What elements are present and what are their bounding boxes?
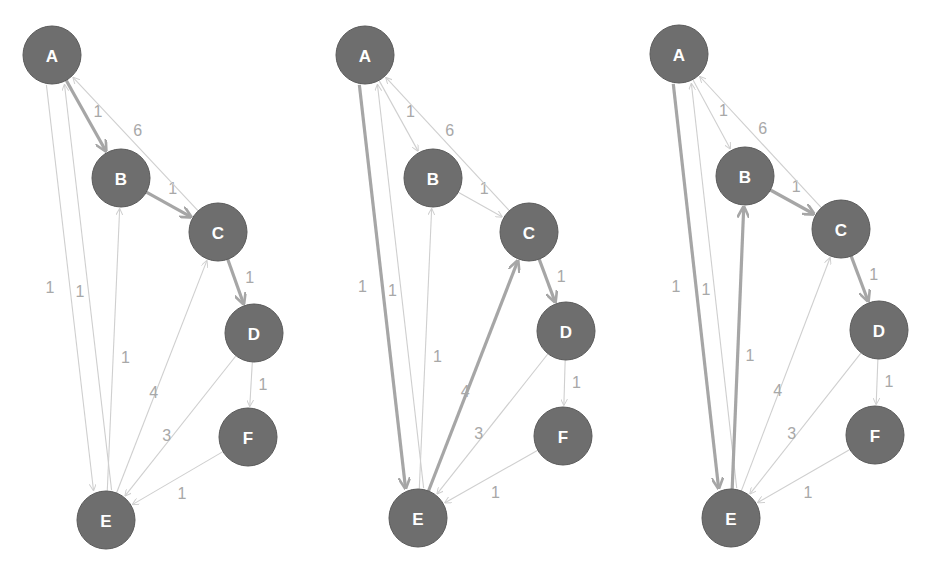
node-f: F [846, 406, 904, 464]
edge-e-to-c [117, 261, 207, 493]
graph-2: 11611311114ABCDEF [336, 26, 595, 547]
edge-weight-label: 1 [121, 349, 130, 366]
edge-weight-label: 1 [388, 282, 397, 299]
node-label: C [523, 224, 535, 243]
node-label: D [560, 323, 572, 342]
node-label: F [870, 427, 880, 446]
edge-e-to-c-highlighted [428, 261, 517, 491]
node-a: A [336, 26, 394, 84]
edge-weight-label: 1 [94, 103, 103, 120]
edge-weight-label: 1 [746, 347, 755, 364]
node-label: F [558, 428, 568, 447]
node-label: E [725, 510, 736, 529]
node-label: B [115, 170, 127, 189]
edge-weight-label: 4 [461, 383, 470, 400]
edge-weight-label: 1 [433, 348, 442, 365]
node-a: A [23, 26, 81, 84]
edge-weight-label: 1 [803, 484, 812, 501]
graph-canvas: 11611311114ABCDEF11611311114ABCDEF116113… [0, 0, 930, 575]
node-d: D [225, 304, 283, 362]
edge-weight-label: 1 [869, 266, 878, 283]
edge-e-to-b [107, 209, 119, 491]
node-label: D [873, 322, 885, 341]
node-b: B [716, 147, 774, 205]
edge-weight-label: 1 [406, 103, 415, 120]
edge-weight-label: 1 [671, 278, 680, 295]
node-c: C [500, 203, 558, 261]
node-label: E [412, 510, 423, 529]
edge-e-to-b [419, 209, 431, 489]
edge-weight-label: 4 [149, 384, 158, 401]
edge-weight-label: 1 [557, 268, 566, 285]
edge-c-to-d-highlighted [539, 259, 555, 302]
node-label: D [248, 325, 260, 344]
node-d: D [537, 302, 595, 360]
edge-weight-label: 6 [133, 122, 142, 139]
node-f: F [534, 407, 592, 465]
edge-weight-label: 6 [758, 120, 767, 137]
node-label: A [46, 47, 58, 66]
edge-c-to-d-highlighted [228, 259, 244, 303]
edge-weight-label: 1 [885, 373, 894, 390]
edge-weight-label: 1 [702, 281, 711, 298]
node-e: E [77, 491, 135, 549]
node-b: B [92, 149, 150, 207]
node-label: A [359, 47, 371, 66]
edge-weight-label: 1 [177, 485, 186, 502]
edge-d-to-f [876, 359, 878, 404]
edge-d-to-e [125, 356, 236, 496]
edge-weight-label: 3 [787, 425, 796, 442]
edge-weight-label: 1 [168, 180, 177, 197]
node-label: E [100, 512, 111, 531]
edge-c-to-d-highlighted [851, 256, 868, 301]
edge-weight-label: 1 [491, 484, 500, 501]
edge-d-to-f [250, 362, 253, 406]
graph-1: 11611311114ABCDEF [23, 26, 283, 549]
edge-weight-label: 3 [474, 425, 483, 442]
node-e: E [389, 489, 447, 547]
edge-weight-label: 1 [480, 180, 489, 197]
edge-d-to-f [564, 360, 565, 405]
edge-weight-label: 1 [572, 374, 581, 391]
edge-e-to-c [741, 258, 830, 491]
node-e: E [702, 489, 760, 547]
edge-weight-label: 4 [773, 382, 782, 399]
node-label: C [212, 224, 224, 243]
node-label: C [835, 221, 847, 240]
edge-e-to-a [691, 84, 736, 488]
node-c: C [812, 200, 870, 258]
node-a: A [650, 25, 708, 83]
node-f: F [219, 408, 277, 466]
edge-weight-label: 1 [358, 278, 367, 295]
edge-weight-label: 1 [259, 376, 268, 393]
edge-e-to-a [377, 85, 423, 488]
node-label: A [673, 46, 685, 65]
edge-weight-label: 1 [245, 269, 254, 286]
node-c: C [189, 203, 247, 261]
node-d: D [850, 301, 908, 359]
node-label: B [739, 168, 751, 187]
node-label: F [243, 429, 253, 448]
edge-weight-label: 6 [445, 122, 454, 139]
edge-e-to-b-highlighted [732, 207, 744, 489]
edge-weight-label: 1 [45, 279, 54, 296]
edge-weight-label: 3 [162, 427, 171, 444]
node-label: B [427, 170, 439, 189]
edge-weight-label: 1 [76, 283, 85, 300]
edge-weight-label: 1 [719, 102, 728, 119]
node-b: B [404, 149, 462, 207]
graph-3: 11611311114ABCDEF [650, 25, 908, 547]
